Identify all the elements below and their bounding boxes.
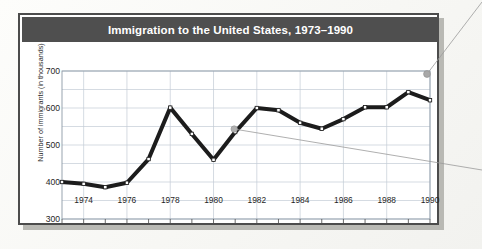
x-tick-1976: 1976 [110,195,144,205]
x-tick-1980: 1980 [197,195,231,205]
data-point-1979 [190,132,193,135]
data-point-1988 [385,106,388,109]
chart-title-bar: Immigration to the United States, 1973–1… [22,17,439,42]
data-point-1989 [407,90,410,93]
x-tick-1986: 1986 [326,195,360,205]
x-tick-1990: 1990 [413,195,447,205]
data-point-1973 [60,180,63,183]
x-axis-ticks [62,219,430,223]
data-point-1976 [125,181,128,184]
data-point-1977 [147,157,150,160]
x-tick-1978: 1978 [153,195,187,205]
chart-figure: Immigration to the United States, 1973–1… [18,13,439,225]
data-point-1990 [428,99,431,102]
data-point-1978 [169,106,172,109]
data-point-1984 [298,121,301,124]
chart-title: Immigration to the United States, 1973–1… [108,24,353,36]
data-point-1974 [82,182,85,185]
data-point-1975 [104,185,107,188]
data-point-1987 [363,106,366,109]
data-point-1980 [212,158,215,161]
data-point-1985 [320,127,323,130]
data-line-immigration [62,92,430,187]
x-axis-tick-labels: 197419761978198019821984198619881990 [20,195,437,211]
data-point-1981 [233,130,236,133]
plot-area-wrapper: Number of immigrants (in thousands) 3004… [20,42,437,223]
x-tick-1982: 1982 [240,195,274,205]
x-tick-1988: 1988 [370,195,404,205]
x-tick-1984: 1984 [283,195,317,205]
data-point-1986 [342,117,345,120]
data-point-1982 [255,106,258,109]
data-point-markers [60,90,431,188]
data-point-1983 [277,109,280,112]
x-tick-1974: 1974 [67,195,101,205]
chart-screenshot: Immigration to the United States, 1973–1… [0,0,482,249]
